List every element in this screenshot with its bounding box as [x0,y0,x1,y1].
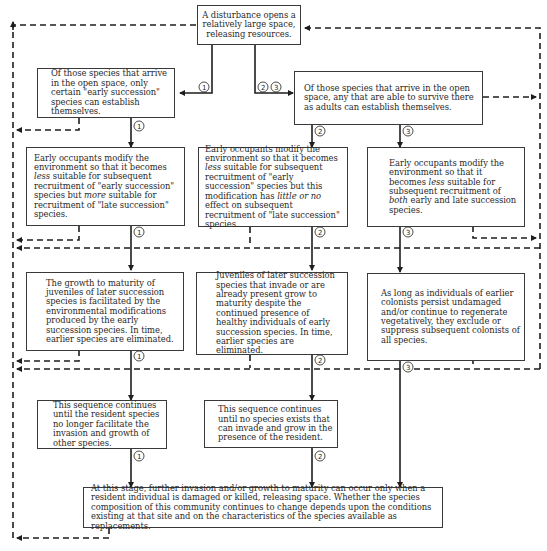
svg-text:2: 2 [318,128,322,136]
box-growth-3-text: As long as individuals of earlier coloni… [381,289,520,345]
svg-text:3: 3 [406,128,410,136]
svg-text:3: 3 [406,229,410,237]
box-disturbance-text: A disturbance opens a relatively large s… [198,11,300,39]
box-disturbance: A disturbance opens a relatively large s… [197,5,301,45]
box-arrival-early-text: Of those species that arrive in the open… [51,69,170,116]
box-arrival-any-text: Of those species that arrive in the open… [304,84,474,112]
box-modify-early-facilitation: Early occupants modify the environment s… [26,147,185,226]
box-growth-facilitated: The growth to maturity of juveniles of l… [26,272,184,351]
box-final-stage: At this stage, further invasion and/or g… [83,487,443,528]
box-sequence-2-text: This sequence continues until no species… [218,405,333,443]
box-growth-inhibited: As long as individuals of earlier coloni… [367,273,525,361]
box-arrival-any: Of those species that arrive in the open… [294,71,483,125]
svg-text:1: 1 [137,453,141,461]
box-growth-tolerated: Juveniles of later succession species th… [196,272,348,355]
svg-text:2: 2 [318,357,322,365]
box-modify-1-text: Early occupants modify the environment s… [34,154,180,220]
box-sequence-1-text: This sequence continues until the reside… [53,401,162,448]
box-arrival-early: Of those species that arrive in the open… [37,68,175,118]
box-modify-inhibition: Early occupants modify the environment s… [367,147,525,227]
svg-text:3: 3 [406,364,410,372]
box-modify-tolerance: Early occupants modify the environment s… [198,147,348,227]
box-sequence-tolerance: This sequence continues until no species… [204,400,338,448]
box-modify-2-text: Early occupants modify the environment s… [205,145,343,230]
box-growth-1-text: The growth to maturity of juveniles of l… [46,279,179,345]
svg-text:2: 2 [318,453,322,461]
box-growth-2-text: Juveniles of later succession species th… [216,271,343,356]
box-sequence-facilitation: This sequence continues until the reside… [37,400,167,449]
svg-text:3: 3 [274,84,278,92]
svg-text:1: 1 [137,229,141,237]
svg-text:2: 2 [261,84,265,92]
svg-text:1: 1 [137,123,141,131]
svg-text:1: 1 [137,353,141,361]
svg-text:1: 1 [202,84,206,92]
box-final-text: At this stage, further invasion and/or g… [91,484,438,531]
svg-text:2: 2 [318,229,322,237]
box-modify-3-text: Early occupants modify the environment s… [389,159,520,215]
